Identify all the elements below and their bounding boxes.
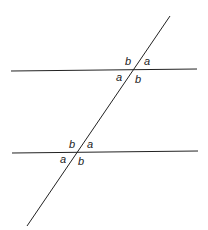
lower-angle-bottom-right: b <box>78 155 84 167</box>
lower-angle-top-left: b <box>69 138 75 150</box>
transversal-line <box>27 16 170 226</box>
upper-angle-bottom-right: b <box>135 73 141 85</box>
lower-angle-bottom-left: a <box>60 153 66 165</box>
upper-parallel-line <box>11 69 197 71</box>
lower-angle-top-right: a <box>87 138 93 150</box>
upper-angle-bottom-left: a <box>116 71 122 83</box>
lower-parallel-line <box>12 151 198 153</box>
parallel-lines-diagram: b a a b b a a b <box>0 0 208 230</box>
upper-angle-top-left: b <box>125 55 131 67</box>
upper-angle-top-right: a <box>144 55 150 67</box>
